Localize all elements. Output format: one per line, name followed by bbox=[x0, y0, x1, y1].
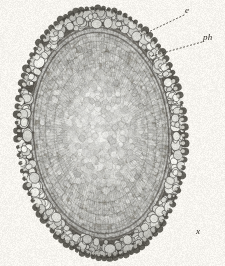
label-epidermis-e: e bbox=[185, 6, 189, 15]
micrograph-illustration bbox=[0, 0, 225, 266]
figure-plate: e ph x bbox=[0, 0, 225, 266]
label-xylem-x: x bbox=[196, 227, 200, 236]
label-phloem-ph: ph bbox=[203, 33, 212, 42]
